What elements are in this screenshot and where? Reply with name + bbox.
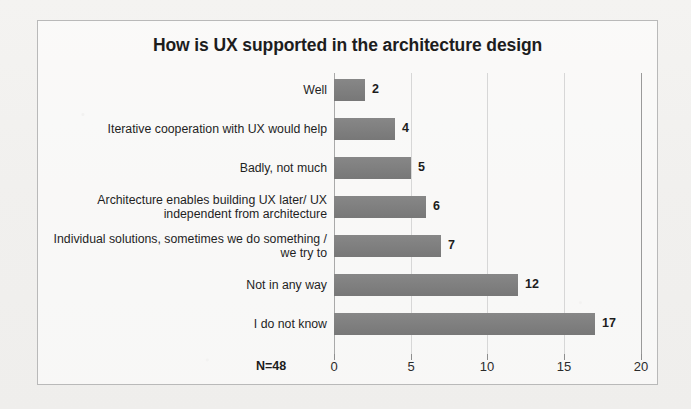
x-tick-label: 15: [557, 359, 571, 374]
bar-value-label: 17: [602, 316, 616, 330]
bar-badly-not-much: [334, 157, 411, 179]
category-label: Badly, not much: [37, 161, 327, 175]
category-label: Iterative cooperation with UX would help: [37, 122, 327, 136]
x-tick-label: 20: [634, 359, 648, 374]
bar-value-label: 6: [433, 199, 440, 213]
bar-value-label: 12: [525, 277, 539, 291]
gridline-10: [487, 73, 488, 354]
bar-architecture-enables: [334, 196, 426, 218]
sample-size-annotation: N=48: [256, 359, 286, 373]
category-label: Individual solutions, sometimes we do so…: [37, 232, 327, 260]
x-tick-label: 10: [480, 359, 494, 374]
bar-well: [334, 79, 365, 101]
x-tick-label: 5: [407, 359, 414, 374]
category-label: Well: [37, 83, 327, 97]
bar-value-label: 7: [448, 238, 455, 252]
gridline-20: [641, 73, 642, 354]
bar-individual-solutions: [334, 235, 441, 257]
chart-title: How is UX supported in the architecture …: [38, 35, 657, 56]
gridline-15: [564, 73, 565, 354]
bar-value-label: 4: [402, 121, 409, 135]
category-label: I do not know: [37, 317, 327, 331]
category-axis-labels: Well Iterative cooperation with UX would…: [38, 73, 327, 354]
x-tick-label: 0: [330, 359, 337, 374]
category-label: Architecture enables building UX later/ …: [37, 193, 327, 221]
bar-value-label: 2: [372, 82, 379, 96]
bar-iterative-cooperation: [334, 118, 395, 140]
bar-i-do-not-know: [334, 313, 595, 335]
plot-area: 2 4 5 6 7 12 17 0 5 10 15 20: [334, 73, 643, 354]
category-label: Not in any way: [37, 278, 327, 292]
bar-value-label: 5: [418, 160, 425, 174]
bar-not-in-any-way: [334, 274, 518, 296]
chart-frame: How is UX supported in the architecture …: [37, 20, 658, 385]
